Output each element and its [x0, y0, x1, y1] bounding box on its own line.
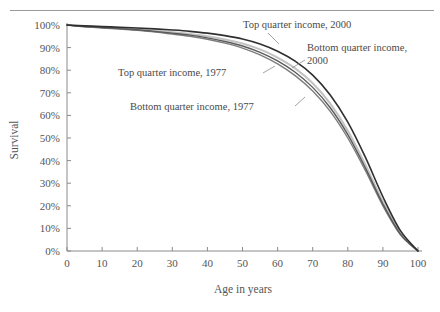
curve-bottom-quarter-income-1977 — [67, 25, 418, 251]
annot-bottom-2000-line-0: Bottom quarter income, — [307, 42, 407, 53]
annot-top-1977: Top quarter income, 1977 — [118, 67, 226, 78]
y-tick-label-0%: 0% — [45, 245, 60, 257]
annot-bottom-2000: Bottom quarter income,2000 — [307, 42, 407, 66]
y-axis-title: Survival — [8, 121, 20, 160]
x-tick-label-20: 20 — [132, 257, 144, 269]
y-tick-label-70%: 70% — [40, 87, 60, 99]
x-tick-label-0: 0 — [64, 257, 70, 269]
x-tick-label-70: 70 — [307, 257, 319, 269]
annot-bottom-2000-line-1: 2000 — [307, 55, 328, 66]
x-tick-label-90: 90 — [377, 257, 389, 269]
chart-plot-area: 0102030405060708090100 0%10%20%30%40%50%… — [0, 0, 440, 312]
x-tick-label-50: 50 — [237, 257, 249, 269]
y-tick-label-40%: 40% — [40, 155, 60, 167]
annotation-leader-lines — [263, 33, 305, 106]
x-tick-label-40: 40 — [202, 257, 214, 269]
x-tick-label-80: 80 — [342, 257, 354, 269]
data-series-curves — [67, 25, 418, 251]
curve-top-quarter-income-1977 — [67, 25, 418, 251]
curve-bottom-quarter-income-2000 — [67, 25, 418, 251]
y-tick-label-80%: 80% — [40, 64, 60, 76]
x-tick-label-60: 60 — [272, 257, 284, 269]
annot-bottom-1977-line-0: Bottom quarter income, 1977 — [130, 101, 254, 112]
leader-line-annot-top-1977 — [263, 66, 275, 73]
x-axis-title: Age in years — [214, 283, 273, 296]
y-tick-label-30%: 30% — [40, 177, 60, 189]
y-tick-label-100%: 100% — [34, 19, 60, 31]
y-axis-tick-labels: 0%10%20%30%40%50%60%70%80%90%100% — [34, 19, 60, 257]
y-tick-label-20%: 20% — [40, 200, 60, 212]
annot-bottom-1977: Bottom quarter income, 1977 — [130, 101, 254, 112]
y-tick-label-10%: 10% — [40, 222, 60, 234]
x-tick-label-30: 30 — [167, 257, 179, 269]
x-axis-tick-labels: 0102030405060708090100 — [64, 257, 427, 269]
y-tick-label-60%: 60% — [40, 109, 60, 121]
leader-line-annot-bottom-1977 — [295, 97, 305, 106]
y-tick-label-90%: 90% — [40, 42, 60, 54]
annot-top-1977-line-0: Top quarter income, 1977 — [118, 67, 226, 78]
survival-chart-figure: 0102030405060708090100 0%10%20%30%40%50%… — [0, 0, 440, 312]
leader-line-annot-top-2000 — [268, 33, 279, 44]
x-tick-label-100: 100 — [410, 257, 427, 269]
axes — [67, 23, 422, 251]
annot-top-2000: Top quarter income, 2000 — [243, 19, 351, 30]
curve-top-quarter-income-2000 — [67, 25, 418, 251]
tick-marks — [67, 25, 418, 251]
x-tick-label-10: 10 — [97, 257, 109, 269]
y-tick-label-50%: 50% — [40, 132, 60, 144]
annot-top-2000-line-0: Top quarter income, 2000 — [243, 19, 351, 30]
